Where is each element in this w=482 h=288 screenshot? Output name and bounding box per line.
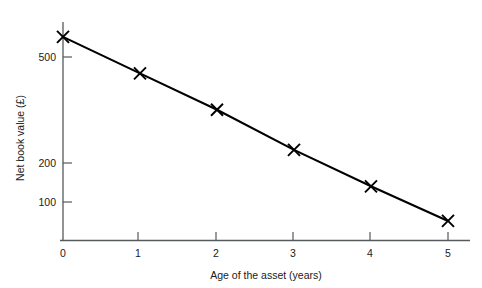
- x-axis-title: Age of the asset (years): [210, 269, 321, 281]
- data-point-marker: [134, 67, 146, 79]
- data-series-net-book-value: [57, 31, 454, 227]
- data-point-marker: [211, 104, 223, 116]
- series-line-path: [63, 37, 448, 221]
- x-tick-label-0: 0: [60, 247, 66, 259]
- data-point-marker: [288, 144, 300, 156]
- line-chart-plot: 500 200 100 0 1 2 3 4 5 Net book value (…: [0, 0, 482, 288]
- y-axis-title: Net book value (£): [14, 95, 26, 181]
- x-tick-label-3: 3: [290, 247, 296, 259]
- data-point-marker: [365, 180, 377, 192]
- x-tick-label-1: 1: [135, 247, 141, 259]
- y-tick-label-200: 200: [38, 157, 56, 169]
- y-tick-label-500: 500: [38, 51, 56, 63]
- chart-figure: 500 200 100 0 1 2 3 4 5 Net book value (…: [0, 0, 482, 288]
- data-point-marker: [442, 215, 454, 227]
- y-tick-label-100: 100: [38, 196, 56, 208]
- x-tick-label-5: 5: [445, 247, 451, 259]
- x-tick-label-2: 2: [213, 247, 219, 259]
- x-tick-label-4: 4: [367, 247, 373, 259]
